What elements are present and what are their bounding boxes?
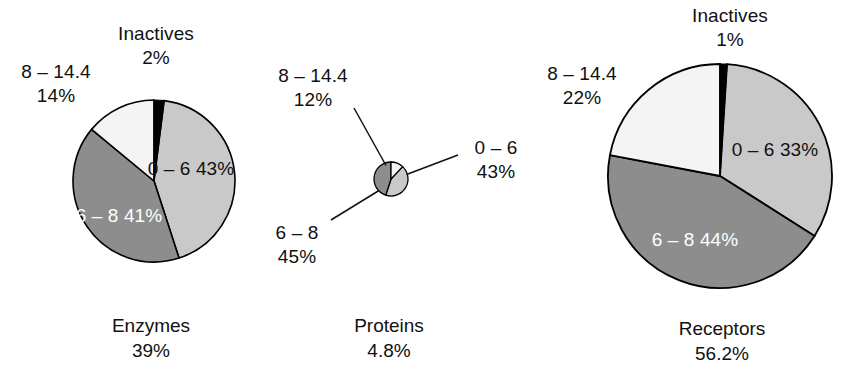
receptors-0-6-label: 0 – 6 33%: [732, 138, 818, 162]
enzymes-inactives-name: Inactives: [118, 22, 194, 46]
receptors-0-6-name: 0 – 6: [732, 139, 775, 160]
proteins-caption: Proteins 4.8%: [354, 313, 424, 363]
enzymes-pie: [73, 100, 235, 262]
enzymes-0-6-value: 43%: [196, 158, 234, 179]
receptors-caption-value: 56.2%: [679, 341, 766, 366]
enzymes-8-14-4-value: 14%: [21, 84, 90, 108]
proteins-0-6-label: 0 – 6 43%: [475, 136, 518, 184]
receptors-6-8-value: 44%: [700, 229, 738, 250]
proteins-8-14-4-value: 12%: [278, 88, 347, 112]
enzymes-6-8-name: 6 – 8: [76, 205, 119, 226]
receptors-inactives-label: Inactives 1%: [692, 4, 768, 52]
proteins-0-6-name: 0 – 6: [475, 136, 518, 160]
receptors-8-14-4-name: 8 – 14.4: [547, 62, 616, 86]
proteins-pie: [331, 108, 458, 220]
receptors-inactives-name: Inactives: [692, 4, 768, 28]
enzymes-8-14-4-name: 8 – 14.4: [21, 60, 90, 84]
enzymes-6-8-value: 41%: [124, 205, 162, 226]
enzymes-0-6-name: 0 – 6: [148, 158, 191, 179]
three-pie-chart-figure: Inactives 2% 8 – 14.4 14% 0 – 6 43% 6 – …: [0, 0, 855, 382]
proteins-caption-value: 4.8%: [354, 338, 424, 363]
receptors-6-8-label: 6 – 8 44%: [652, 228, 738, 252]
enzymes-6-8-label: 6 – 8 41%: [76, 204, 162, 228]
proteins-caption-title: Proteins: [354, 313, 424, 338]
enzymes-8-14-4-label: 8 – 14.4 14%: [21, 60, 90, 108]
proteins-8-14-4-name: 8 – 14.4: [278, 64, 347, 88]
receptors-6-8-name: 6 – 8: [652, 229, 695, 250]
receptors-8-14-4-label: 8 – 14.4 22%: [547, 62, 616, 110]
enzymes-caption: Enzymes 39%: [112, 313, 190, 363]
enzymes-inactives-label: Inactives 2%: [118, 22, 194, 70]
proteins-6-8-label: 6 – 8 45%: [276, 221, 319, 269]
enzymes-inactives-value: 2%: [118, 46, 194, 70]
receptors-caption: Receptors 56.2%: [679, 316, 766, 366]
proteins-6-8-value: 45%: [276, 245, 319, 269]
receptors-8-14-4-value: 22%: [547, 86, 616, 110]
proteins-leader-8-14-4: [354, 108, 386, 166]
receptors-pie: [608, 64, 832, 288]
enzymes-caption-value: 39%: [112, 338, 190, 363]
proteins-6-8-name: 6 – 8: [276, 221, 319, 245]
proteins-0-6-value: 43%: [475, 160, 518, 184]
receptors-0-6-value: 33%: [780, 139, 818, 160]
proteins-8-14-4-label: 8 – 14.4 12%: [278, 64, 347, 112]
receptors-caption-title: Receptors: [679, 316, 766, 341]
enzymes-caption-title: Enzymes: [112, 313, 190, 338]
proteins-leader-6-8: [331, 191, 379, 221]
proteins-leader-0-6: [407, 155, 459, 175]
receptors-inactives-value: 1%: [692, 28, 768, 52]
enzymes-0-6-label: 0 – 6 43%: [148, 157, 234, 181]
